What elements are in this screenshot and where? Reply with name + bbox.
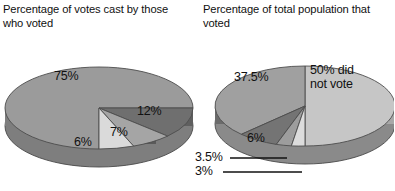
right-pie-chart: 50% did not vote 37.5% 6% 3.5% 3%	[197, 0, 394, 191]
left-slice-label-7: 7%	[110, 126, 128, 140]
right-slice-label-50: 50% did not vote	[310, 64, 354, 91]
left-pie-svg	[0, 0, 197, 191]
right-callout-label-3: 3%	[195, 165, 213, 178]
left-slice-label-75: 75%	[54, 70, 78, 84]
left-pie-slices	[5, 67, 193, 149]
right-slice-label-6: 6%	[247, 132, 265, 146]
left-slice-label-6: 6%	[74, 136, 92, 150]
left-slice-label-12: 12%	[137, 105, 161, 119]
left-pie-chart: 75% 12% 7% 6%	[0, 0, 197, 191]
right-slice-label-37-5: 37.5%	[234, 71, 268, 85]
right-pie-svg	[197, 0, 394, 191]
left-chart-panel: Percentage of votes cast by those who vo…	[0, 0, 197, 191]
right-chart-panel: Percentage of total population that vote…	[197, 0, 394, 191]
right-callout-label-3-5: 3.5%	[195, 151, 223, 164]
